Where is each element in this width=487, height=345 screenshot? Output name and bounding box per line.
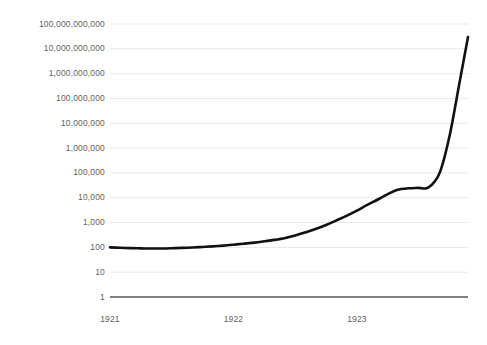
chart-container: 100,000,000,00010,000,000,0001,000,000,0… xyxy=(0,0,487,345)
series-line-price-index xyxy=(110,37,468,249)
chart-plot-area xyxy=(0,0,487,345)
gridlines xyxy=(110,24,468,272)
